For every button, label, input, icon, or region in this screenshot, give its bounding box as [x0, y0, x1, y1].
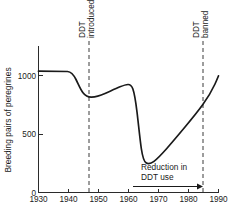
- ddt-banned-label-line1: DDT: [192, 21, 201, 38]
- y-tick-label-1000: 1000: [18, 72, 37, 81]
- x-tick-label-1930: 1930: [29, 195, 48, 204]
- reduction-label-line1: Reduction in: [141, 162, 188, 172]
- x-tick-label-1990: 1990: [209, 195, 228, 204]
- ddt-introduced-label-line2: introduced: [87, 0, 96, 38]
- x-tick-label-1970: 1970: [149, 195, 168, 204]
- chart-canvas: 0 500 1000 1930 1940 1950 1960 1970 1980…: [0, 0, 234, 221]
- peregrine-population-curve: [39, 71, 219, 163]
- ddt-banned-label-line2: banned: [201, 10, 210, 38]
- y-tick-label-500: 500: [22, 130, 36, 139]
- x-tick-label-1940: 1940: [59, 195, 78, 204]
- x-tick-label-1980: 1980: [179, 195, 198, 204]
- x-tick-label-1960: 1960: [119, 195, 138, 204]
- reduction-label-line2: DDT use: [141, 172, 174, 182]
- x-tick-label-1950: 1950: [89, 195, 108, 204]
- y-axis-title: Breeding pairs of peregrines: [3, 67, 13, 172]
- peregrine-ddt-chart: 0 500 1000 1930 1940 1950 1960 1970 1980…: [0, 0, 234, 221]
- ddt-introduced-label-line1: DDT: [78, 21, 87, 38]
- reduction-arrow: [133, 184, 203, 190]
